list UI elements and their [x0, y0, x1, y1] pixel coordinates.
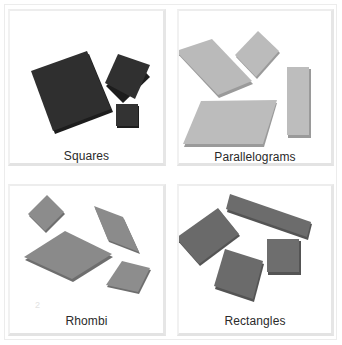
panel-squares: Squares — [8, 9, 166, 166]
panel-label-squares: Squares — [10, 149, 163, 163]
faint-page-mark: 2 — [35, 300, 40, 310]
wide-parallelogram-shape-face — [183, 100, 277, 144]
large-square-shape-face — [31, 51, 111, 131]
parallelograms-illustration — [179, 11, 336, 168]
small-rhombus-shape-face — [28, 195, 64, 231]
small-square-shape-face — [116, 104, 138, 126]
squares-illustration — [10, 11, 168, 168]
panel-rhombi: 2 Rhombi — [8, 184, 166, 336]
vertical-rectangle-shape-face — [287, 67, 309, 135]
panel-label-rectangles: Rectangles — [179, 314, 331, 328]
large-rhombus-shape-face — [24, 231, 112, 279]
upright-rectangle-shape-face — [267, 239, 299, 272]
panel-rectangles: Rectangles — [177, 184, 334, 336]
medium-square-shape-face — [105, 54, 150, 99]
panel-parallelograms: Parallelograms — [177, 9, 334, 166]
panel-label-rhombi: Rhombi — [10, 314, 163, 328]
panel-label-parallelograms: Parallelograms — [179, 150, 331, 164]
tall-rhombus-shape-face — [94, 206, 139, 252]
